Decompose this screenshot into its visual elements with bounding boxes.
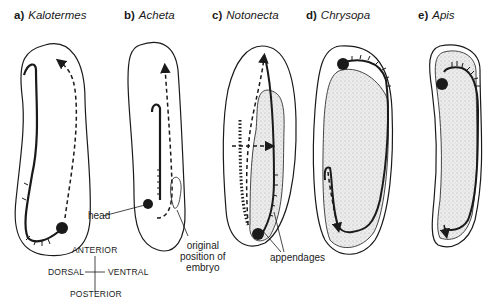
head-dot-b xyxy=(143,199,153,209)
egg-chrysopa xyxy=(313,46,392,254)
dorsal-label: DORSAL xyxy=(48,267,84,277)
head-dot-c xyxy=(252,228,264,240)
posterior-label: POSTERIOR xyxy=(70,289,122,299)
original-position-line1: original xyxy=(180,240,226,251)
egg-notonecta xyxy=(223,46,296,252)
original-position-line3: embryo xyxy=(180,262,226,273)
head-label: head xyxy=(88,210,110,221)
appendages-label: appendages xyxy=(270,252,325,263)
original-position-label: original position of embryo xyxy=(180,240,226,273)
egg-kalotermes xyxy=(15,44,90,256)
orientation-key-cross xyxy=(85,256,105,292)
egg-apis xyxy=(430,45,482,247)
original-position-line2: position of xyxy=(180,251,226,262)
head-dot-e xyxy=(436,78,448,90)
anterior-label: ANTERIOR xyxy=(72,245,118,255)
head-dot-a xyxy=(56,222,68,234)
ventral-label: VENTRAL xyxy=(108,267,149,277)
egg-acheta xyxy=(103,42,188,251)
embryo-diagram xyxy=(0,0,502,304)
head-dot-d xyxy=(337,58,349,70)
